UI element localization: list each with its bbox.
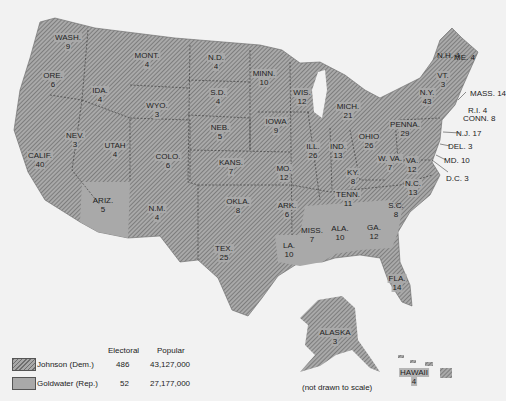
electoral-votes: 4 bbox=[213, 62, 219, 71]
electoral-votes: 12 bbox=[407, 165, 418, 174]
state-name: NEV. bbox=[65, 131, 85, 140]
electoral-votes: 7 bbox=[301, 235, 323, 244]
state-label: W. VA.7 bbox=[377, 154, 403, 172]
electoral-votes: 21 bbox=[343, 111, 354, 120]
johnson-electoral: 486 bbox=[116, 360, 129, 369]
electoral-votes: 6 bbox=[284, 210, 290, 219]
state-label: N.C.13 bbox=[404, 179, 422, 197]
state-label: OKLA.8 bbox=[225, 197, 251, 215]
electoral-votes: 4 bbox=[97, 95, 103, 104]
electoral-votes: 3 bbox=[468, 142, 472, 151]
state-name: S.D. bbox=[209, 88, 227, 97]
state-name: IDA. bbox=[91, 86, 109, 95]
electoral-votes: 26 bbox=[308, 151, 319, 160]
state-name: MONT. bbox=[134, 51, 161, 60]
electoral-votes: 29 bbox=[400, 129, 411, 138]
state-name: S.C. bbox=[388, 201, 404, 210]
state-label-outside: MASS. 14 bbox=[470, 89, 506, 98]
state-name: ME. bbox=[454, 53, 468, 62]
johnson-swatch bbox=[12, 358, 36, 371]
state-name: WIS. bbox=[292, 88, 311, 97]
electoral-votes: 10 bbox=[461, 156, 470, 165]
state-label: ALA.10 bbox=[331, 224, 348, 242]
state-name: D.C. bbox=[446, 174, 462, 183]
state-label: ARIZ.5 bbox=[93, 196, 113, 214]
state-name: ALASKA bbox=[318, 328, 351, 337]
state-label-outside: N.J. 17 bbox=[456, 129, 481, 138]
state-label: ORE.6 bbox=[42, 71, 64, 89]
electoral-votes: 4 bbox=[470, 53, 474, 62]
electoral-votes: 3 bbox=[154, 110, 160, 119]
state-name: CONN. bbox=[463, 114, 489, 123]
state-label: CALIF.40 bbox=[27, 151, 53, 169]
state-name: ALA. bbox=[331, 224, 348, 233]
state-label: ALASKA3 bbox=[318, 328, 351, 346]
state-label: OHIO26 bbox=[358, 132, 380, 150]
state-name: N.C. bbox=[404, 179, 422, 188]
state-name: MD. bbox=[444, 156, 459, 165]
state-name: WYO. bbox=[145, 101, 168, 110]
electoral-votes: 8 bbox=[350, 177, 356, 186]
state-label: HAWAII4 bbox=[399, 368, 429, 386]
state-name: LA. bbox=[283, 241, 295, 250]
electoral-votes: 4 bbox=[154, 213, 160, 222]
johnson-popular: 43,127,000 bbox=[150, 360, 190, 369]
state-label: VT.3 bbox=[436, 71, 450, 89]
state-name: KANS. bbox=[218, 158, 244, 167]
electoral-votes: 6 bbox=[50, 80, 56, 89]
state-name: VT. bbox=[436, 71, 450, 80]
state-label: LA.10 bbox=[283, 241, 295, 259]
electoral-votes: 8 bbox=[388, 210, 404, 219]
state-name: N.Y. bbox=[419, 88, 436, 97]
electoral-votes: 12 bbox=[297, 97, 308, 106]
state-label: N.M.4 bbox=[148, 204, 167, 222]
state-name: ILL. bbox=[305, 142, 320, 151]
electoral-votes: 3 bbox=[72, 140, 78, 149]
state-label-outside: DEL. 3 bbox=[448, 142, 472, 151]
legend-header-electoral: Electoral bbox=[108, 346, 139, 355]
state-label: GA.12 bbox=[367, 223, 381, 241]
state-name: N.H. bbox=[437, 51, 453, 60]
state-name: OHIO bbox=[358, 132, 380, 141]
state-name: WASH. bbox=[54, 33, 82, 42]
goldwater-swatch bbox=[12, 377, 36, 390]
electoral-votes: 17 bbox=[472, 129, 481, 138]
state-name: N.J. bbox=[456, 129, 470, 138]
state-name: HAWAII bbox=[399, 368, 429, 377]
electoral-votes: 13 bbox=[333, 151, 344, 160]
state-label: NEB.5 bbox=[210, 123, 231, 141]
electoral-votes: 10 bbox=[283, 250, 295, 259]
electoral-votes: 3 bbox=[440, 80, 446, 89]
state-name: IND. bbox=[329, 142, 347, 151]
electoral-votes: 4 bbox=[411, 377, 417, 386]
state-label: S.C.8 bbox=[388, 201, 404, 219]
state-label: MICH.21 bbox=[336, 102, 361, 120]
electoral-votes: 10 bbox=[259, 78, 270, 87]
electoral-votes: 26 bbox=[364, 141, 375, 150]
state-label-outside: CONN. 8 bbox=[463, 114, 495, 123]
goldwater-popular: 27,177,000 bbox=[150, 379, 190, 388]
electoral-votes: 4 bbox=[215, 97, 221, 106]
state-name: TENN. bbox=[335, 190, 361, 199]
state-name: ARIZ. bbox=[93, 196, 113, 205]
state-label: IDA.4 bbox=[91, 86, 109, 104]
state-label: MINN.10 bbox=[252, 69, 277, 87]
state-label: S.D.4 bbox=[209, 88, 227, 106]
state-name: N.M. bbox=[148, 204, 167, 213]
state-name: VA. bbox=[405, 156, 419, 165]
state-name: OKLA. bbox=[225, 197, 251, 206]
state-label: WIS.12 bbox=[292, 88, 311, 106]
electoral-votes: 3 bbox=[332, 337, 338, 346]
state-label: MONT.4 bbox=[134, 51, 161, 69]
state-name: ARK. bbox=[277, 201, 298, 210]
state-name: MISS. bbox=[301, 226, 323, 235]
state-label: UTAH4 bbox=[103, 141, 126, 159]
state-label: TENN.11 bbox=[335, 190, 361, 208]
state-name: FLA. bbox=[388, 274, 407, 283]
state-label: ARK.6 bbox=[277, 201, 298, 219]
state-name: MICH. bbox=[336, 102, 361, 111]
state-label: NEV.3 bbox=[65, 131, 85, 149]
state-label: N.D.4 bbox=[207, 53, 225, 71]
electoral-votes: 9 bbox=[65, 42, 71, 51]
state-label: KY.8 bbox=[346, 168, 360, 186]
